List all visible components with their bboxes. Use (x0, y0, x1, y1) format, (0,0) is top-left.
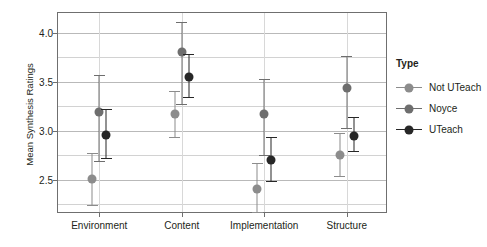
plot-area: 2.53.03.54.0EnvironmentContentImplementa… (57, 12, 387, 213)
error-bar-cap-upper (183, 54, 194, 55)
error-bar-cap-upper (101, 109, 112, 110)
error-bar-cap-lower (176, 104, 187, 105)
error-bar-cap-lower (94, 161, 105, 162)
gridline-minor (58, 57, 386, 58)
gridline-major (58, 180, 386, 181)
error-bar-cap-lower (101, 158, 112, 159)
data-point (349, 131, 358, 140)
legend-marker-icon (396, 125, 422, 134)
y-axis-title: Mean Synthesis Ratings (24, 30, 35, 200)
legend-marker-icon (396, 104, 422, 113)
data-point (177, 48, 186, 57)
data-point (170, 109, 179, 118)
x-tick-label: Content (164, 220, 199, 231)
error-bar-cap-lower (334, 176, 345, 177)
error-bar-cap-upper (266, 137, 277, 138)
data-point (260, 109, 269, 118)
error-bar-cap-upper (87, 153, 98, 154)
data-point (88, 174, 97, 183)
error-bar-cap-upper (176, 22, 187, 23)
data-point (253, 184, 262, 193)
x-tick-label: Structure (326, 220, 367, 231)
x-tick-mark (347, 212, 348, 217)
error-bar (181, 22, 182, 105)
error-bar-cap-upper (259, 79, 270, 80)
error-bar-cap-lower (169, 137, 180, 138)
error-bar-cap-lower (252, 212, 263, 213)
legend: Type Not UTeachNoyceUTeach (396, 58, 481, 140)
legend-label: Noyce (429, 103, 457, 114)
y-tick-mark (53, 33, 58, 34)
error-bar (99, 75, 100, 162)
x-tick-mark (99, 212, 100, 217)
error-bar-cap-upper (169, 91, 180, 92)
gridline-minor (58, 106, 386, 107)
legend-label: UTeach (429, 124, 463, 135)
error-bar-cap-lower (341, 128, 352, 129)
y-tick-label: 3.5 (39, 76, 53, 87)
x-tick-mark (182, 212, 183, 217)
error-bar-cap-upper (348, 117, 359, 118)
gridline-minor (58, 204, 386, 205)
gridline-major (58, 82, 386, 83)
legend-item[interactable]: UTeach (396, 119, 481, 140)
data-point (335, 151, 344, 160)
data-point (102, 130, 111, 139)
chart-container: Mean Synthesis Ratings 2.53.03.54.0Envir… (0, 0, 487, 247)
gridline-major (58, 33, 386, 34)
y-tick-label: 4.0 (39, 27, 53, 38)
x-tick-label: Implementation (230, 220, 298, 231)
error-bar-cap-lower (266, 181, 277, 182)
y-tick-label: 3.0 (39, 125, 53, 136)
y-tick-label: 2.5 (39, 174, 53, 185)
error-bar-cap-upper (252, 163, 263, 164)
y-tick-mark (53, 180, 58, 181)
legend-entries: Not UTeachNoyceUTeach (396, 77, 481, 140)
error-bar-cap-upper (341, 56, 352, 57)
error-bar-cap-lower (87, 205, 98, 206)
y-tick-mark (53, 82, 58, 83)
legend-label: Not UTeach (429, 82, 481, 93)
x-tick-label: Environment (71, 220, 127, 231)
data-point (184, 72, 193, 81)
error-bar-cap-upper (94, 75, 105, 76)
error-bar-cap-lower (183, 97, 194, 98)
legend-title: Type (396, 58, 481, 69)
error-bar-cap-upper (334, 133, 345, 134)
legend-item[interactable]: Noyce (396, 98, 481, 119)
data-point (267, 156, 276, 165)
legend-marker-icon (396, 83, 422, 92)
y-tick-mark (53, 131, 58, 132)
error-bar-cap-lower (348, 151, 359, 152)
legend-item[interactable]: Not UTeach (396, 77, 481, 98)
data-point (342, 84, 351, 93)
x-tick-mark (264, 212, 265, 217)
